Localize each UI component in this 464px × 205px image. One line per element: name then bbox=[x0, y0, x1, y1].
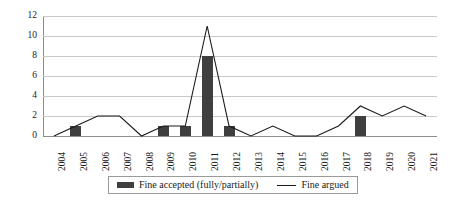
x-axis-tick-label: 2010 bbox=[189, 137, 199, 171]
legend-entry: Fine accepted (fully/partially) bbox=[117, 180, 258, 190]
legend-bar-swatch-icon bbox=[117, 182, 134, 188]
x-axis-tick-label: 2017 bbox=[343, 137, 353, 171]
legend-label: Fine accepted (fully/partially) bbox=[139, 180, 258, 190]
plot-area bbox=[43, 16, 437, 136]
x-axis-tick-label: 2014 bbox=[277, 137, 287, 171]
y-axis-tick-label: 8 bbox=[0, 51, 37, 61]
y-axis-tick-label: 4 bbox=[0, 91, 37, 101]
x-axis-tick-labels: 2004200520062007200820092010201120122013… bbox=[43, 137, 437, 171]
legend-line-swatch-icon bbox=[277, 185, 296, 186]
x-axis-tick-label: 2019 bbox=[386, 137, 396, 171]
x-axis-tick-label: 2007 bbox=[124, 137, 134, 171]
x-axis-tick-label: 2012 bbox=[233, 137, 243, 171]
line-series-fine-argued bbox=[43, 16, 437, 136]
y-axis-tick-label: 12 bbox=[0, 11, 37, 21]
legend-label: Fine argued bbox=[301, 180, 348, 190]
y-axis-tick-label: 0 bbox=[0, 131, 37, 141]
x-axis-tick-label: 2009 bbox=[167, 137, 177, 171]
y-axis-tick-label: 10 bbox=[0, 31, 37, 41]
x-axis-tick-label: 2008 bbox=[146, 137, 156, 171]
x-axis-tick-label: 2011 bbox=[211, 137, 221, 171]
chart-legend: Fine accepted (fully/partially)Fine argu… bbox=[108, 176, 358, 194]
y-axis-tick-label: 2 bbox=[0, 111, 37, 121]
legend-entry: Fine argued bbox=[277, 180, 348, 190]
x-axis-tick-label: 2004 bbox=[58, 137, 68, 171]
x-axis-tick-label: 2006 bbox=[102, 137, 112, 171]
x-axis-tick-label: 2015 bbox=[299, 137, 309, 171]
x-axis-tick-label: 2021 bbox=[430, 137, 440, 171]
x-axis-tick-label: 2016 bbox=[321, 137, 331, 171]
x-axis-tick-label: 2013 bbox=[255, 137, 265, 171]
x-axis-tick-label: 2018 bbox=[364, 137, 374, 171]
y-axis-tick-label: 6 bbox=[0, 71, 37, 81]
x-axis-tick-label: 2020 bbox=[408, 137, 418, 171]
x-axis-tick-label: 2005 bbox=[80, 137, 90, 171]
chart-figure: 024681012 200420052006200720082009201020… bbox=[0, 0, 464, 205]
